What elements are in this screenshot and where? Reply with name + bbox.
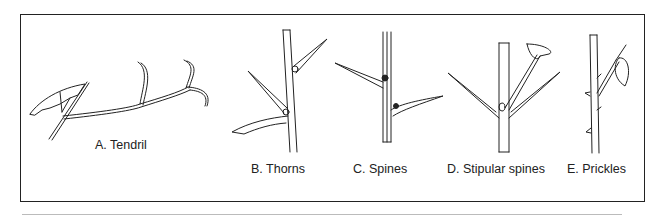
tendril-illustration <box>30 60 208 140</box>
thorns-illustration <box>232 30 327 152</box>
panel-label-c: C. Spines <box>353 162 407 176</box>
spines-illustration <box>335 32 443 142</box>
panel-label-b: B. Thorns <box>251 162 305 176</box>
panel-label-e: E. Prickles <box>567 162 626 176</box>
panel-label-a: A. Tendril <box>95 138 147 152</box>
prickles-illustration <box>585 35 629 153</box>
stipular-spines-illustration <box>448 43 560 152</box>
panel-label-d: D. Stipular spines <box>447 162 545 176</box>
